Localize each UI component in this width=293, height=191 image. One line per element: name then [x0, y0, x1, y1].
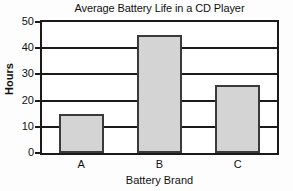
y-tick-mark	[35, 100, 40, 102]
y-tick-label: 30	[0, 68, 34, 79]
y-tick-mark	[35, 126, 40, 128]
y-tick-label: 50	[0, 16, 34, 27]
y-tick-mark	[35, 73, 40, 75]
y-tick-label: 10	[0, 121, 34, 132]
x-tick-label: B	[140, 158, 180, 170]
bar-c	[215, 85, 260, 153]
x-tick-label: C	[218, 158, 258, 170]
y-tick-label: 40	[0, 42, 34, 53]
x-tick-label: A	[61, 158, 101, 170]
bar-chart: Average Battery Life in a CD Player Hour…	[0, 0, 293, 191]
bar-a	[59, 114, 104, 153]
x-axis-label: Battery Brand	[40, 174, 279, 187]
y-tick-label: 0	[0, 147, 34, 158]
plot-inner	[42, 22, 277, 153]
y-tick-mark	[35, 21, 40, 23]
y-tick-label: 20	[0, 95, 34, 106]
chart-title: Average Battery Life in a CD Player	[40, 1, 279, 15]
y-tick-mark	[35, 152, 40, 154]
plot-area	[40, 20, 279, 155]
y-tick-mark	[35, 47, 40, 49]
bar-b	[137, 35, 182, 153]
